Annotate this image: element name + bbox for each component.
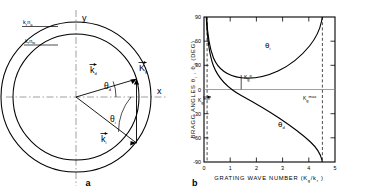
vector-ki	[76, 97, 137, 146]
overbar-Kg-tip	[144, 61, 147, 64]
panel-a-caption: a	[85, 178, 91, 188]
panel-a-wavevector-diagram: krna krnw y x kd Kg ki θd	[0, 0, 190, 194]
overbar-kd-tip	[94, 63, 97, 66]
svg-text:-90: -90	[193, 159, 201, 165]
svg-text:5: 5	[334, 165, 337, 171]
svg-text:BRAGG ANGLES θi , θd (DEG): BRAGG ANGLES θi , θd (DEG)	[190, 40, 198, 138]
svg-text:0: 0	[198, 87, 201, 93]
panel-b-bragg-angle-chart: θi θd Kgmin Kgo Kgmax 90 6	[190, 0, 381, 194]
y-axis-title-group: BRAGG ANGLES θi , θd (DEG)	[190, 40, 198, 138]
svg-text:3: 3	[281, 165, 284, 171]
x-tick-labels: 0 1 2 3 4 5	[203, 165, 337, 171]
svg-text:2: 2	[255, 165, 258, 171]
label-kr-na: krna	[23, 19, 33, 27]
label-theta-i: θi	[110, 114, 116, 125]
figure-root: krna krnw y x kd Kg ki θd	[0, 0, 381, 194]
x-axis-title: GRATING WAVE NUMBER (Kg/kr )	[214, 175, 323, 183]
svg-text:0: 0	[203, 165, 206, 171]
label-vector-Kg: Kg	[139, 63, 147, 74]
arc-theta-i	[119, 97, 132, 132]
label-kr-nw: krnw	[25, 38, 35, 46]
label-vector-ki: ki	[101, 134, 107, 145]
label-vector-kd: kd	[90, 65, 97, 76]
label-axis-y: y	[82, 13, 87, 23]
panel-a-svg: krna krnw y x kd Kg ki θd	[0, 0, 190, 194]
svg-text:90: 90	[195, 14, 201, 20]
arc-theta-d	[113, 81, 116, 97]
panel-b-svg: θi θd Kgmin Kgo Kgmax 90 6	[190, 0, 381, 194]
annotation-kg-opt: Kgo	[244, 73, 253, 81]
curve-label-theta-i: θi	[265, 41, 270, 51]
label-theta-d: θd	[104, 81, 111, 92]
svg-text:1: 1	[229, 165, 232, 171]
label-axis-x: x	[157, 86, 162, 96]
panel-b-caption: b	[192, 178, 198, 188]
annotation-kg-max: Kgmax	[303, 94, 316, 102]
overbar-ki-tip	[105, 132, 108, 135]
svg-text:4: 4	[307, 165, 310, 171]
